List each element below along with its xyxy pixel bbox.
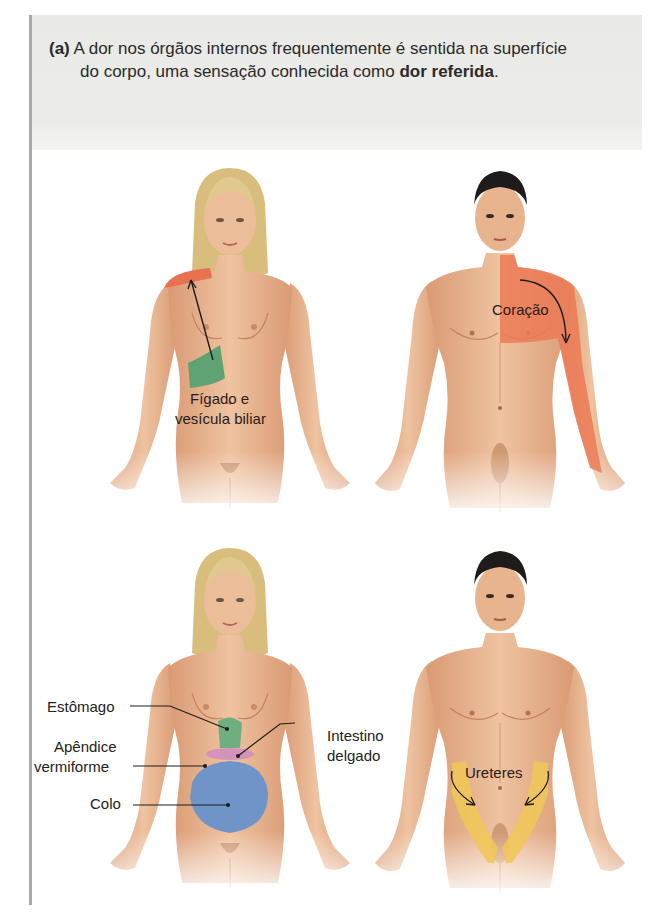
caption-line1: A dor nos órgãos internos frequentemente… (74, 39, 567, 58)
male-body-illustration (370, 543, 630, 903)
label-stomach: Estômago (47, 697, 115, 716)
figure-female-liver: Fígado e vesícula biliar (100, 163, 360, 523)
label-colon: Colo (90, 794, 121, 813)
figure-female-digestive: Estômago Apêndice vermiforme Colo Intest… (100, 543, 360, 903)
caption-line2: do corpo, uma sensação conhecida como do… (49, 60, 609, 83)
label-liver-line2: vesícula biliar (175, 409, 266, 428)
figure-male-heart: Coração (370, 163, 630, 523)
male-body-illustration (370, 163, 630, 523)
leader-lines (0, 543, 360, 903)
caption-term: dor referida (399, 62, 493, 81)
female-body-illustration (100, 163, 360, 523)
label-appendix-line1: Apêndice (54, 737, 117, 756)
label-appendix-line2: vermiforme (34, 757, 109, 776)
figure-male-ureters: Ureteres (370, 543, 630, 903)
figure-caption: (a) A dor nos órgãos internos frequentem… (49, 37, 609, 83)
caption-tag: (a) (49, 39, 70, 58)
label-liver-line1: Fígado e (190, 389, 249, 408)
label-ureters: Ureteres (465, 763, 523, 782)
label-heart: Coração (492, 300, 549, 319)
